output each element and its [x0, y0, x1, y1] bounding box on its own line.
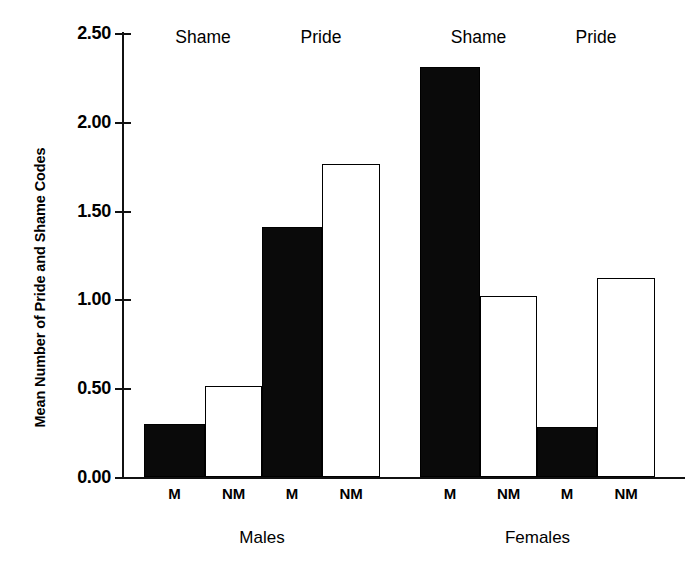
x-tick-label: M [262, 485, 322, 502]
y-tick-mark [115, 122, 131, 124]
y-axis-title-container: Mean Number of Pride and Shame Codes [22, 0, 58, 575]
x-tick-label: M [144, 485, 205, 502]
x-axis-line [122, 477, 685, 479]
y-tick-mark [115, 388, 131, 390]
emotion-label-pride: Pride [251, 27, 391, 48]
bar [144, 424, 205, 477]
x-tick-label: NM [480, 485, 537, 502]
y-axis-title: Mean Number of Pride and Shame Codes [22, 0, 58, 575]
y-tick-mark [115, 299, 131, 301]
y-tick-mark [115, 477, 131, 479]
bar [420, 67, 480, 477]
y-axis-line [122, 32, 124, 478]
plot-area: 2.502.001.501.000.500.00 [122, 33, 682, 477]
emotion-label-pride: Pride [526, 27, 666, 48]
y-tick-mark [115, 211, 131, 213]
bar [205, 386, 262, 477]
x-tick-label: NM [205, 485, 262, 502]
y-tick-label: 0.00 [77, 467, 111, 488]
group-label-males: Males [182, 528, 342, 548]
y-tick-label: 0.50 [77, 378, 111, 399]
y-tick-label: 1.50 [77, 201, 111, 222]
y-tick-label: 1.00 [77, 289, 111, 310]
y-tick-label: 2.50 [77, 23, 111, 44]
bar [262, 227, 322, 477]
bar-chart-figure: Mean Number of Pride and Shame Codes 2.5… [0, 0, 697, 575]
group-label-females: Females [458, 528, 618, 548]
bar [480, 296, 537, 477]
y-tick-mark [115, 33, 131, 35]
bar [597, 278, 655, 477]
bar [537, 427, 597, 477]
x-tick-label: M [537, 485, 597, 502]
x-tick-label: NM [322, 485, 380, 502]
x-tick-label: M [420, 485, 480, 502]
bar [322, 164, 380, 477]
y-tick-label: 2.00 [77, 112, 111, 133]
x-tick-label: NM [597, 485, 655, 502]
